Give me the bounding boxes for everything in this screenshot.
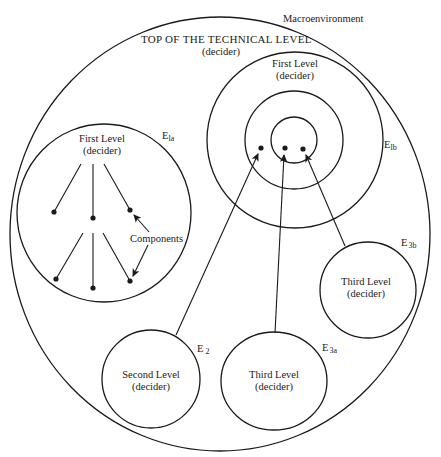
e3b-role: (decider) — [347, 288, 385, 300]
e1a-role: (decider) — [83, 145, 121, 157]
e2-system: Second Level (decider) E2 — [102, 154, 258, 428]
top-level-role: (decider) — [202, 46, 240, 58]
e1a-system: First Level (decider) Ela Components — [17, 124, 191, 302]
components-arrow-down — [133, 245, 148, 276]
e1b-system: First Level (decider) Elb — [207, 52, 397, 228]
e3b-title: Third Level — [341, 276, 391, 287]
e3a-to-e1b-arrow — [275, 155, 284, 333]
e2-role: (decider) — [132, 381, 170, 393]
e2-label: E2 — [197, 343, 209, 356]
e3a-label: E3a — [322, 342, 337, 355]
components-label: Components — [130, 233, 183, 244]
e1b-node-3 — [300, 146, 305, 151]
component-link — [56, 233, 83, 279]
hierarchy-diagram: Macroenvironment TOP OF THE TECHNICAL LE… — [0, 0, 441, 457]
e1a-label: Ela — [162, 130, 175, 143]
top-level-title: TOP OF THE TECHNICAL LEVEL — [141, 33, 312, 45]
macroenvironment-label: Macroenvironment — [283, 13, 364, 24]
component-node — [51, 209, 56, 214]
component-node — [90, 215, 95, 220]
components-arrow-up — [134, 215, 149, 232]
e1b-title: First Level — [272, 58, 318, 69]
component-link — [103, 233, 130, 281]
macroenvironment-boundary — [10, 17, 430, 451]
outer-circle — [10, 17, 430, 451]
e1b-node-2 — [282, 145, 287, 150]
e3b-to-e1b-arrow — [306, 155, 345, 246]
e1b-role: (decider) — [276, 70, 314, 82]
e3b-system: Third Level (decider) E3b — [306, 155, 416, 338]
e2-title: Second Level — [122, 369, 180, 380]
e3b-label: E3b — [401, 237, 416, 250]
e1a-title: First Level — [79, 133, 125, 144]
component-node — [53, 276, 58, 281]
component-node — [90, 285, 95, 290]
component-link — [104, 164, 130, 210]
e3a-title: Third Level — [249, 369, 299, 380]
e1b-node-1 — [258, 145, 263, 150]
e3a-role: (decider) — [255, 381, 293, 393]
component-node — [127, 278, 132, 283]
component-node — [127, 207, 132, 212]
component-link — [54, 164, 81, 212]
e1b-middle-circle — [245, 91, 343, 189]
e1b-inner-circle — [271, 117, 317, 163]
e1b-label: Elb — [384, 139, 397, 152]
